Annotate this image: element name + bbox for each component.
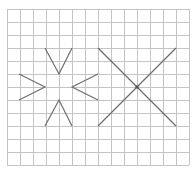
grid-lines	[7, 9, 190, 166]
center-dot-marker	[136, 86, 139, 89]
grid-diagram	[0, 0, 196, 175]
